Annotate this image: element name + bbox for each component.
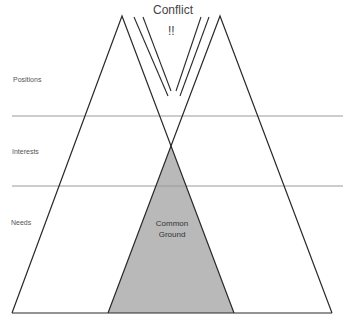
level-label-needs: Needs bbox=[11, 219, 31, 226]
conflict-diagram-canvas bbox=[0, 0, 347, 323]
tension-line-left-1 bbox=[134, 17, 168, 96]
common-ground-label: Common Ground bbox=[147, 218, 197, 240]
common-ground-line1: Common bbox=[147, 218, 197, 229]
level-label-interests: Interests bbox=[12, 148, 39, 155]
common-ground-line2: Ground bbox=[147, 229, 197, 240]
tension-line-left-2 bbox=[143, 17, 171, 91]
level-label-positions: Positions bbox=[13, 76, 41, 83]
tension-line-right-2 bbox=[176, 17, 201, 91]
conflict-title: Conflict bbox=[153, 3, 193, 17]
exclamation-mark: !! bbox=[168, 24, 175, 38]
